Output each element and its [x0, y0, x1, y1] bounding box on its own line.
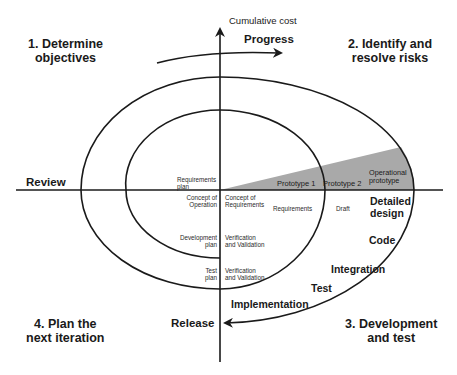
development-plan-line2: plan: [180, 241, 217, 248]
prototype-1-label: Prototype 1: [277, 180, 315, 189]
quadrant-1-line2: objectives: [28, 51, 103, 65]
quadrant-1-label: 1. Determine objectives: [28, 37, 103, 66]
concept-of-requirements-line1: Concept of: [225, 194, 264, 201]
quadrant-3-line1: 3. Development: [345, 317, 437, 331]
spiral-model-diagram: Cumulative cost Progress Review Release …: [0, 0, 457, 375]
vv2-line2: and Validation: [225, 274, 264, 281]
development-plan-label: Development plan: [180, 234, 217, 248]
vv1-line1: Verification: [225, 234, 264, 241]
progress-label: Progress: [244, 33, 294, 46]
quadrant-4-label: 4. Plan the next iteration: [26, 317, 105, 346]
quadrant-2-line2: resolve risks: [348, 51, 432, 65]
detailed-design-label: Detailed design: [370, 195, 411, 219]
operational-prototype-line2: prototype: [369, 177, 407, 185]
quadrant-1-line1: 1. Determine: [28, 37, 103, 51]
cumulative-cost-label: Cumulative cost: [229, 16, 297, 27]
test-plan-label: Test plan: [205, 267, 217, 281]
requirements-plan-label: Requirements plan: [177, 176, 216, 190]
concept-of-operation-line2: Operation: [187, 201, 217, 208]
operational-prototype-label: Operational prototype: [369, 169, 407, 186]
test-plan-line2: plan: [205, 274, 217, 281]
concept-of-requirements-line2: Requirements: [225, 201, 264, 208]
progress-arrow: [157, 52, 280, 63]
draft-label: Draft: [336, 205, 350, 212]
detailed-design-line1: Detailed: [370, 195, 411, 207]
integration-label: Integration: [331, 263, 385, 275]
verification-validation-1-label: Verification and Validation: [225, 234, 264, 248]
concept-of-operation-line1: Concept of: [187, 194, 217, 201]
detailed-design-line2: design: [370, 207, 411, 219]
development-plan-line1: Development: [180, 234, 217, 241]
concept-of-requirements-label: Concept of Requirements: [225, 194, 264, 208]
concept-of-operation-label: Concept of Operation: [187, 194, 217, 208]
quadrant-2-label: 2. Identify and resolve risks: [348, 37, 432, 66]
quadrant-4-line1: 4. Plan the: [26, 317, 105, 331]
implementation-label: Implementation: [231, 298, 309, 310]
quadrant-3-line2: and test: [345, 331, 437, 345]
vv2-line1: Verification: [225, 267, 264, 274]
requirements-plan-line2: plan: [177, 183, 216, 190]
quadrant-2-line1: 2. Identify and: [348, 37, 432, 51]
review-label: Review: [26, 176, 66, 189]
vv1-line2: and Validation: [225, 241, 264, 248]
release-label: Release: [171, 317, 214, 330]
requirements-label: Requirements: [273, 205, 312, 212]
test-plan-line1: Test: [205, 267, 217, 274]
prototype-2-label: Prototype 2: [323, 180, 361, 189]
test-label: Test: [311, 282, 332, 294]
code-label: Code: [369, 234, 395, 246]
quadrant-3-label: 3. Development and test: [345, 317, 437, 346]
verification-validation-2-label: Verification and Validation: [225, 267, 264, 281]
requirements-plan-line1: Requirements: [177, 176, 216, 183]
quadrant-4-line2: next iteration: [26, 331, 105, 345]
